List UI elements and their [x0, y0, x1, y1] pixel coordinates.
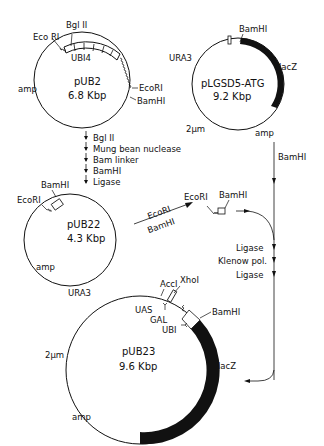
ura3-label: URA3	[169, 53, 192, 63]
ubi-fragment: EcoRI BamHI	[184, 190, 274, 240]
construction-diagram: Eco RI Bgl II UBI4 EcoRI BamHI amp pUB2 …	[0, 0, 324, 446]
plasmid-size: 4.3 Kbp	[67, 233, 105, 244]
acci-site-label: AccI	[160, 279, 178, 289]
digest-label: BamHI	[278, 152, 306, 162]
insert-box-icon	[51, 199, 63, 210]
ura3-label: URA3	[68, 288, 91, 298]
step-label: Ligase	[236, 270, 263, 280]
step-label: Ligase	[93, 177, 120, 187]
bamhi-site-label: BamHI	[219, 190, 247, 200]
amp-label: amp	[255, 128, 274, 138]
bamhi-site-label: BamHI	[41, 180, 69, 190]
arrow-head-icon	[185, 202, 193, 208]
plasmid-name: pUB22	[67, 219, 100, 230]
plasmid-pUB23: AccI XhoI URA3 UAS GAL UBI BamHI 2μm lac…	[45, 275, 240, 444]
step-label: Ligase	[236, 243, 263, 253]
plasmid-pLGSD5-ATG: BamHI URA3 lacZ 2μm amp pLGSD5-ATG 9.2 K…	[169, 24, 297, 138]
step-label: Klenow pol.	[218, 256, 267, 266]
step-label: Bgl II	[93, 133, 114, 143]
amp-label: amp	[18, 84, 37, 94]
down-arrow-icon	[272, 178, 276, 184]
lacz-label: lacZ	[218, 361, 236, 371]
ubi4-label: UBI4	[71, 53, 91, 63]
plasmid-pUB22: BamHI EcoRI amp pUB22 4.3 Kbp	[17, 180, 116, 286]
plasmid-size: 9.2 Kbp	[213, 91, 251, 102]
uas-marker-icon	[163, 303, 167, 310]
fragment-box-icon	[218, 208, 225, 214]
down-arrow-icon	[84, 131, 88, 140]
marker-box-icon	[228, 36, 231, 44]
bamhi-site-label: BamHI	[212, 307, 240, 317]
ecori-site-label: Eco RI	[33, 32, 59, 42]
plasmid-size: 6.8 Kbp	[68, 90, 106, 101]
bamhi-site-label: BamHI	[137, 96, 165, 106]
bamhi-site-label: BamHI	[239, 24, 267, 34]
xhoi-site-label: XhoI	[180, 275, 199, 285]
step-label: Bam linker	[93, 155, 139, 165]
ubi-label: UBI	[162, 325, 177, 335]
digest-arrow: EcoRI BamHI	[134, 202, 193, 235]
lacz-segment-icon	[140, 320, 220, 444]
step-label: BamHI	[93, 166, 121, 176]
plasmid-size: 9.6 Kbp	[119, 361, 157, 372]
amp-label: amp	[36, 262, 55, 272]
plasmid-name: pLGSD5-ATG	[201, 78, 264, 89]
plasmid-name: pUB2	[74, 76, 101, 87]
lacz-label: lacZ	[279, 62, 297, 72]
steps-pUB2-to-pUB22: Bgl II Mung bean nuclease Bam linker Bam…	[84, 131, 181, 187]
2mu-label: 2μm	[45, 350, 64, 360]
pLGSD5-digest-path: BamHI Ligase Klenow pol. Ligase	[218, 142, 306, 383]
bglii-site-label: Bgl II	[66, 20, 87, 30]
step-label: Mung bean nuclease	[93, 144, 181, 154]
2mu-label: 2μm	[186, 124, 205, 134]
ecori-site-label-2: EcoRI	[139, 83, 163, 93]
plasmid-name: pUB23	[122, 346, 155, 357]
uas-label: UAS	[135, 305, 152, 315]
amp-label: amp	[72, 412, 91, 422]
gal-label: GAL	[150, 315, 167, 325]
plasmid-pUB2: Eco RI Bgl II UBI4 EcoRI BamHI amp pUB2 …	[18, 20, 165, 128]
ecori-site-label: EcoRI	[184, 192, 208, 202]
ecori-site-label: EcoRI	[17, 195, 41, 205]
